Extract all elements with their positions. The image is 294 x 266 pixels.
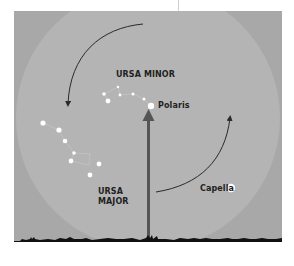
polaris-star — [148, 103, 154, 109]
ursa-minor-label: URSA MINOR — [116, 70, 175, 80]
diagram-canvas — [0, 0, 294, 266]
ursa-major-label-line1: URSA — [98, 187, 123, 197]
polaris-label: Polaris — [158, 101, 190, 111]
ursa-major-label-line2: MAJOR — [98, 197, 129, 207]
capella-label: Capella — [200, 184, 234, 194]
night-sky-diagram: URSA MINOR Polaris URSA MAJOR Capella — [0, 0, 294, 266]
pole-arrow-shaft — [147, 118, 150, 242]
